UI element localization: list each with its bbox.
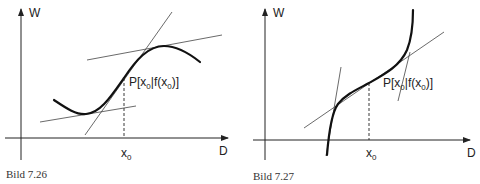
caption-7-27: Bild 7.27: [253, 170, 294, 182]
point-p-label: P[x0|f(x0)]: [129, 75, 179, 91]
figure-7-26: W D x0 P[x0|f(x0)] Bild 7.26: [5, 6, 228, 180]
x0-label: x0: [121, 146, 132, 162]
tangent-inflection: [85, 12, 172, 135]
x0-label: x0: [366, 146, 377, 162]
point-p-label: P[x0|f(x0)]: [383, 76, 433, 92]
figure-7-27: W D x0 P[x0|f(x0)] Bild 7.27: [253, 6, 476, 182]
w-axis-label: W: [29, 6, 41, 20]
w-axis-label: W: [273, 6, 285, 20]
caption-7-26: Bild 7.26: [6, 168, 47, 180]
diagrams-canvas: W D x0 P[x0|f(x0)] Bild 7.26 W D x0 P[x0…: [0, 0, 480, 184]
d-axis-label: D: [467, 146, 476, 160]
d-axis-label: D: [219, 144, 228, 158]
